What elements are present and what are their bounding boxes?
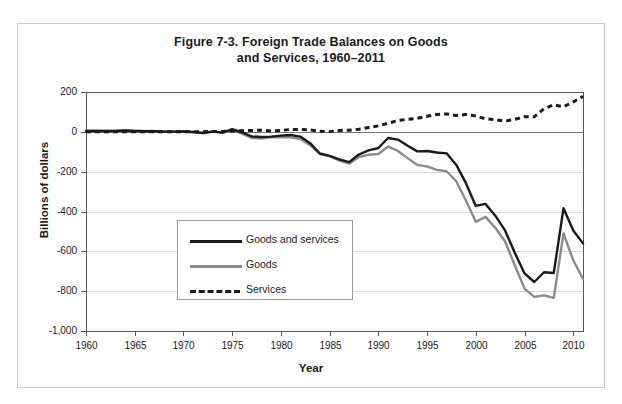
series-line-services [86, 96, 583, 131]
x-tick-label: 1990 [354, 340, 404, 351]
legend-label: Services [246, 283, 286, 295]
x-tick-label: 1965 [111, 340, 161, 351]
legend-label: Goods [246, 258, 277, 270]
plot-canvas [18, 24, 606, 389]
y-tick-label: 0 [18, 126, 77, 137]
legend-swatch-solid-black [190, 240, 242, 243]
chart-legend: Goods and servicesGoodsServices [177, 220, 353, 300]
legend-swatch-solid-gray [190, 265, 242, 268]
legend-item: Goods and services [178, 230, 352, 252]
y-tick-label: -800 [18, 285, 77, 296]
x-tick-label: 1980 [257, 340, 307, 351]
x-tick-label: 1995 [403, 340, 453, 351]
legend-swatch-dashed-black [190, 290, 240, 293]
y-tick-label: 200 [18, 86, 77, 97]
x-tick-label: 1975 [208, 340, 258, 351]
x-tick-label: 1985 [306, 340, 356, 351]
y-tick-label: -600 [18, 245, 77, 256]
x-tick-label: 1960 [62, 340, 112, 351]
figure-frame: Figure 7-3. Foreign Trade Balances on Go… [17, 23, 605, 388]
y-tick-label: -1,000 [18, 325, 77, 336]
legend-item: Services [178, 280, 352, 302]
x-tick-label: 2005 [501, 340, 551, 351]
legend-label: Goods and services [246, 233, 339, 245]
x-tick-label: 2010 [549, 340, 599, 351]
x-tick-label: 2000 [452, 340, 502, 351]
legend-item: Goods [178, 255, 352, 277]
y-tick-label: -200 [18, 166, 77, 177]
x-tick-label: 1970 [159, 340, 209, 351]
y-tick-label: -400 [18, 206, 77, 217]
